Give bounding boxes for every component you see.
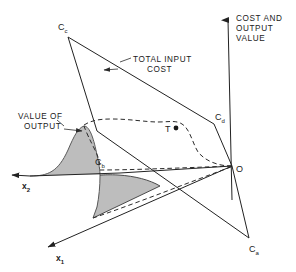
total-input-cost-line1: TOTAL INPUT bbox=[133, 55, 192, 64]
value-of-output-line1: VALUE OF bbox=[18, 112, 63, 121]
vertical-axis bbox=[228, 20, 232, 200]
point-marker-t bbox=[174, 126, 179, 131]
edge-cc-cd bbox=[68, 37, 214, 124]
vertical-axis-label-line2: OUTPUT bbox=[236, 24, 273, 33]
label-cd: Cd bbox=[215, 112, 225, 124]
x2-axis-label: x2 bbox=[22, 181, 31, 193]
edge-cd-o bbox=[214, 124, 232, 166]
axis-labels: COST AND OUTPUT VALUE x2 x1 bbox=[22, 14, 283, 265]
base-dash-cb-o bbox=[100, 166, 231, 170]
value-of-output-line2: OUTPUT bbox=[24, 122, 61, 131]
cost-output-diagram: COST AND OUTPUT VALUE x2 x1 Cc Cd Ca Cb … bbox=[0, 0, 296, 272]
annotation-texts: TOTAL INPUT COST VALUE OF OUTPUT bbox=[18, 55, 192, 131]
vertical-axis-label-line1: COST AND bbox=[236, 14, 283, 23]
label-t: T bbox=[165, 124, 171, 134]
x1-axis-label: x1 bbox=[56, 253, 65, 265]
ridge-curve bbox=[84, 119, 231, 166]
vertical-axis-label-line3: VALUE bbox=[236, 34, 265, 43]
edge-o-ca bbox=[232, 166, 249, 238]
label-o: O bbox=[236, 164, 243, 174]
total-input-cost-line2: COST bbox=[147, 65, 172, 74]
label-ca: Ca bbox=[249, 244, 260, 256]
label-cb: Cb bbox=[95, 157, 106, 169]
label-cc: Cc bbox=[58, 22, 68, 34]
